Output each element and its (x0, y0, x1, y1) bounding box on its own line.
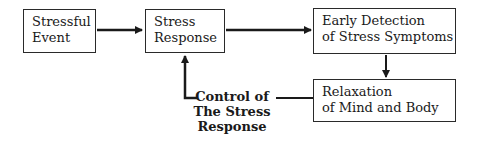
node-label-line: of Stress Symptoms (322, 29, 447, 45)
feedback-label-line: Response (190, 119, 274, 134)
node-early-detection: Early Detection of Stress Symptoms (313, 8, 456, 54)
node-label-line: Stressful (32, 14, 87, 30)
feedback-label-line: Control of (190, 89, 274, 104)
feedback-label: Control of The Stress Response (190, 89, 274, 134)
node-label-line: Relaxation (322, 84, 447, 100)
node-label-line: Stress (154, 14, 216, 30)
node-label-line: Response (154, 30, 216, 46)
node-label-line: of Mind and Body (322, 100, 447, 116)
node-relaxation: Relaxation of Mind and Body (313, 79, 456, 122)
node-stressful-event: Stressful Event (23, 9, 96, 53)
feedback-label-line: The Stress (190, 104, 274, 119)
node-label-line: Early Detection (322, 13, 447, 29)
node-label-line: Event (32, 30, 87, 46)
node-stress-response: Stress Response (145, 9, 225, 53)
